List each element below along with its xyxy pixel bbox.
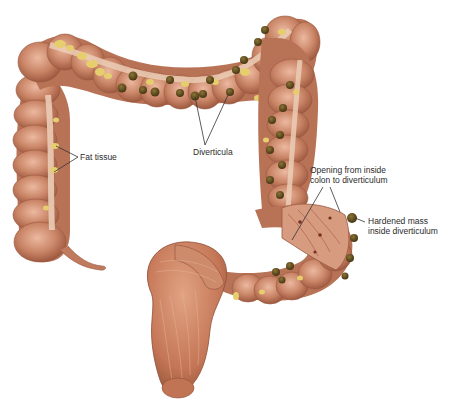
label-hardened-line1: Hardened mass <box>368 216 428 226</box>
label-diverticula: Diverticula <box>193 147 233 157</box>
label-hardened-line2: inside diverticulum <box>368 226 438 236</box>
label-opening-line2: colon to diverticulum <box>310 175 387 185</box>
rectum <box>147 242 226 398</box>
label-opening-line1: Opening from inside <box>310 165 386 175</box>
label-fat-tissue: Fat tissue <box>80 152 117 162</box>
ascending-colon <box>13 70 106 270</box>
colon-illustration <box>0 0 454 403</box>
descending-colon <box>258 38 318 212</box>
sigmoid-colon <box>215 204 358 304</box>
